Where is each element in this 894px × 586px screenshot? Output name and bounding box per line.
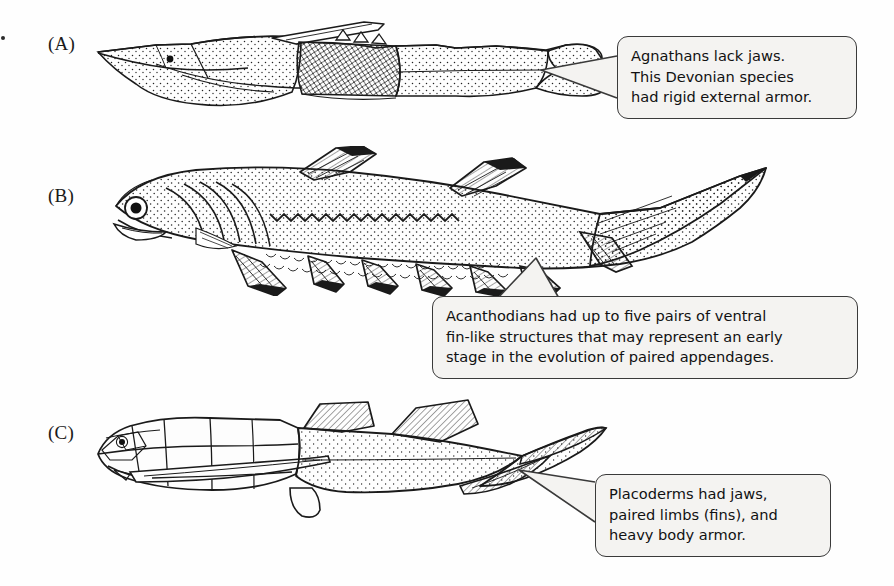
panel-label-c: (C) xyxy=(48,422,74,444)
callout-agnathan: Agnathans lack jaws. This Devonian speci… xyxy=(617,36,857,119)
callout-placoderm-line-3: heavy body armor. xyxy=(609,525,817,546)
callout-agnathan-line-1: Agnathans lack jaws. xyxy=(631,46,843,67)
callout-acanthodian-line-1: Acanthodians had up to five pairs of ven… xyxy=(446,306,844,327)
illustration-placoderm xyxy=(92,398,612,523)
callout-agnathan-line-3: had rigid external armor. xyxy=(631,87,843,108)
panel-label-a: (A) xyxy=(48,33,75,55)
fossil-fish-figure: (A) (B) (C) xyxy=(0,0,894,586)
callout-placoderm: Placoderms had jaws, paired limbs (fins)… xyxy=(595,474,831,557)
callout-placoderm-line-2: paired limbs (fins), and xyxy=(609,505,817,526)
illustration-agnathan xyxy=(96,12,636,130)
callout-acanthodian-line-2: fin-like structures that may represent a… xyxy=(446,327,844,348)
caption-remnant-dot xyxy=(1,36,5,40)
illustration-acanthodian xyxy=(100,146,800,296)
callout-acanthodian: Acanthodians had up to five pairs of ven… xyxy=(432,296,858,379)
callout-acanthodian-line-3: stage in the evolution of paired appenda… xyxy=(446,347,844,368)
callout-agnathan-line-2: This Devonian species xyxy=(631,67,843,88)
panel-label-b: (B) xyxy=(48,185,74,207)
callout-placoderm-line-1: Placoderms had jaws, xyxy=(609,484,817,505)
